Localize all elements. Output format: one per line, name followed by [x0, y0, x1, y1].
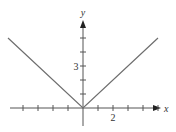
y-tick-label-3: 3 — [74, 61, 79, 72]
x-axis-arrow-icon — [153, 105, 161, 111]
x-axis: x 2 — [10, 103, 169, 124]
y-axis-arrow-icon — [80, 20, 86, 28]
y-axis-label: y — [80, 7, 86, 18]
x-axis-label: x — [163, 103, 169, 114]
chart: x 2 y 3 — [0, 0, 176, 132]
x-tick-label-2: 2 — [111, 112, 116, 123]
